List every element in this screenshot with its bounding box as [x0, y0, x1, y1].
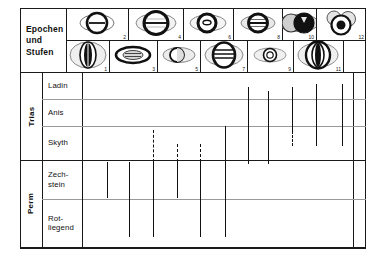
stage-cell-skyth: Skyth — [42, 126, 82, 160]
range-bar-10 — [292, 87, 293, 131]
stage-label-line-2: liegend — [48, 223, 74, 232]
fossil-ammonoid-icon — [321, 10, 361, 36]
range-bar-11 — [316, 84, 317, 146]
header-title-line-1: Epochen — [26, 24, 63, 34]
fossil-ammonoid-icon — [239, 12, 277, 34]
stage-label: Anis — [48, 108, 64, 118]
fossil-ammonoid-icon — [188, 12, 228, 35]
header-cell-number: 12 — [358, 35, 364, 40]
row-divider-ladin-anis — [42, 99, 366, 100]
header-title-line-2: und — [26, 35, 42, 45]
fossil-ammonoid-icon — [252, 45, 288, 65]
fossil-ammonoid-icon — [68, 40, 108, 70]
header-title-line-3: Stufen — [26, 47, 54, 57]
fossil-ammonoid-icon — [134, 10, 178, 36]
era-label: Trias — [27, 106, 36, 126]
header-cell-9: 9 — [247, 40, 293, 72]
range-bar-2 — [107, 162, 108, 198]
header-cell-6: 6 — [183, 8, 233, 40]
era-cell-trias: Trias — [20, 72, 42, 160]
stage-cell-anis: Anis — [42, 99, 82, 126]
fossil-ammonoid-icon — [77, 11, 117, 35]
range-bar-9 — [268, 91, 269, 164]
fossil-ammonoid-icon — [203, 41, 245, 69]
row-divider-zech-rot — [42, 199, 366, 200]
stratigraphic-range-chart: Epochen und Stufen 2 — [20, 8, 366, 249]
era-cell-perm: Perm — [20, 160, 42, 247]
header-cell-5: 5 — [157, 40, 200, 72]
stage-label: Ladin — [48, 81, 68, 91]
range-bar-10-dashed — [292, 131, 293, 146]
stage-cell-ladin: Ladin — [42, 72, 82, 99]
range-bar-5 — [177, 162, 178, 198]
range-bar-5-dashed — [177, 144, 178, 162]
header-cell-10: 10 — [282, 8, 316, 40]
header-cell-number: 1 — [104, 67, 107, 72]
stage-label-line-1: Rot- — [48, 214, 63, 223]
header-title: Epochen und Stufen — [22, 10, 68, 72]
header-cell-2: 2 — [66, 8, 128, 40]
stage-label-line-1: Zech- — [48, 170, 68, 179]
header-bottom-sep-6 — [343, 40, 344, 72]
range-bar-8 — [248, 87, 249, 164]
header-cell-1: 1 — [66, 40, 109, 72]
fossil-ammonoid-icon — [113, 44, 153, 66]
header-cell-4: 4 — [128, 8, 183, 40]
range-bar-3 — [129, 162, 130, 237]
fossil-ammonoid-icon — [282, 11, 316, 35]
fossil-ammonoid-icon — [296, 40, 340, 70]
header-cell-number: 11 — [336, 67, 341, 72]
era-label: Perm — [27, 193, 36, 214]
header-cell-number: 7 — [242, 67, 245, 72]
range-bar-4 — [153, 162, 154, 237]
header-cell-number: 5 — [195, 67, 198, 72]
stage-label: Skyth — [48, 138, 68, 148]
header-cell-12: 12 — [316, 8, 366, 40]
range-bar-6-dashed — [200, 144, 201, 162]
fossil-ammonoid-icon — [161, 44, 197, 66]
header-cell-7: 7 — [200, 40, 247, 72]
header-cell-3: 3 — [109, 40, 157, 72]
row-divider-anis-skyth — [42, 126, 366, 127]
range-bar-1 — [82, 162, 83, 230]
range-bar-12 — [342, 84, 343, 146]
range-bar-6 — [200, 162, 201, 237]
stage-label-line-2: stein — [48, 180, 65, 189]
range-bar-7 — [225, 126, 226, 237]
header-cell-8: 8 — [233, 8, 282, 40]
body-bottom-divider — [20, 247, 366, 248]
header-cell-11: 11 — [293, 40, 343, 72]
stage-cell-rotliegend: Rot- liegend — [42, 199, 82, 247]
stage-cell-zechstein: Zech- stein — [42, 160, 82, 199]
header-cell-number: 9 — [288, 67, 291, 72]
header-cell-number: 3 — [152, 67, 155, 72]
range-bar-4-dashed — [153, 130, 154, 162]
